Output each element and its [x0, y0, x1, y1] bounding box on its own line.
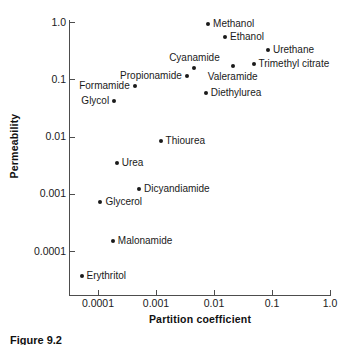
- x-axis-tick: [98, 290, 99, 295]
- x-axis-tick-label: 0.001: [143, 298, 169, 309]
- data-point: [159, 139, 163, 143]
- data-point: [112, 99, 116, 103]
- data-point-label: Malonamide: [118, 236, 172, 246]
- x-axis-title: Partition coefficient: [69, 313, 331, 325]
- data-point-label: Methanol: [213, 19, 254, 29]
- y-axis-title: Permeability: [8, 81, 20, 211]
- data-point-label: Urethane: [273, 45, 314, 55]
- figure-root: 1.00.10.010.0010.0001 0.00010.0010.010.1…: [0, 0, 353, 345]
- data-point-label: Glycerol: [105, 197, 142, 207]
- x-axis-tick-label: 0.1: [265, 298, 280, 309]
- data-point: [98, 200, 102, 204]
- data-point-label: Dicyandiamide: [144, 184, 210, 194]
- data-point-label: Urea: [122, 158, 144, 168]
- data-point: [137, 187, 141, 191]
- data-point: [266, 48, 270, 52]
- data-point: [185, 74, 189, 78]
- data-point-label: Valeramide: [208, 72, 258, 82]
- x-axis-tick: [330, 290, 331, 295]
- y-axis-line: [69, 20, 70, 296]
- data-point: [115, 161, 119, 165]
- data-point: [231, 64, 235, 68]
- data-point: [252, 62, 256, 66]
- data-point: [111, 239, 115, 243]
- y-axis-tick: [70, 22, 75, 23]
- data-point-label: Thiourea: [166, 136, 205, 146]
- x-axis-tick-label: 1.0: [323, 298, 338, 309]
- data-point: [204, 91, 208, 95]
- data-point: [206, 22, 210, 26]
- data-point: [192, 66, 196, 70]
- data-point-label: Erythritol: [87, 271, 126, 281]
- data-point-label: Diethylurea: [211, 88, 262, 98]
- y-axis-tick: [70, 79, 75, 80]
- data-point-label: Formamide: [79, 81, 130, 91]
- x-axis-tick: [272, 290, 273, 295]
- x-axis-tick-label: 0.01: [204, 298, 224, 309]
- data-point: [223, 35, 227, 39]
- data-point-label: Ethanol: [230, 32, 264, 42]
- scatter-plot: 1.00.10.010.0010.0001 0.00010.0010.010.1…: [0, 0, 353, 310]
- y-axis-tick-label: 1.0: [2, 17, 66, 28]
- figure-caption: Figure 9.2: [10, 334, 62, 345]
- x-axis-line: [69, 295, 331, 296]
- x-axis-tick-label: 0.0001: [82, 298, 114, 309]
- data-point-label: Glycol: [81, 96, 109, 106]
- data-point-label: Trimethyl citrate: [259, 59, 330, 69]
- data-point: [133, 84, 137, 88]
- y-axis-tick: [70, 251, 75, 252]
- y-axis-tick: [70, 194, 75, 195]
- data-point: [80, 274, 84, 278]
- data-point-label: Cyanamide: [169, 53, 220, 63]
- y-axis-tick: [70, 137, 75, 138]
- y-axis-tick-label: 0.0001: [2, 246, 66, 257]
- x-axis-tick: [156, 290, 157, 295]
- x-axis-tick: [214, 290, 215, 295]
